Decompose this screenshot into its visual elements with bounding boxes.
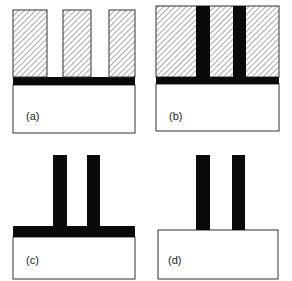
panel-c: (c) [13,155,135,279]
black-pillar [196,155,210,230]
black-pillar [196,6,210,77]
hatched-pillar [109,10,135,77]
panel-d: (d) [158,155,278,279]
hatched-pillar [13,10,47,77]
hatched-fill [156,6,279,77]
hatched-pillar [63,10,91,77]
panel-label: (b) [169,110,182,122]
black-layer [156,77,279,84]
black-pillar [53,155,67,226]
substrate [156,84,279,131]
black-layer [13,226,135,237]
panel-label: (a) [26,110,39,122]
process-diagram: (a) (b) (c) (d) [0,0,292,281]
black-pillar [232,155,245,230]
panel-b: (b) [156,6,279,131]
panel-label: (d) [168,254,181,266]
panel-a: (a) [13,10,135,133]
black-pillar [233,6,246,77]
substrate [13,85,135,133]
panel-label: (c) [26,254,39,266]
black-pillar [87,155,100,226]
black-layer [13,77,135,85]
